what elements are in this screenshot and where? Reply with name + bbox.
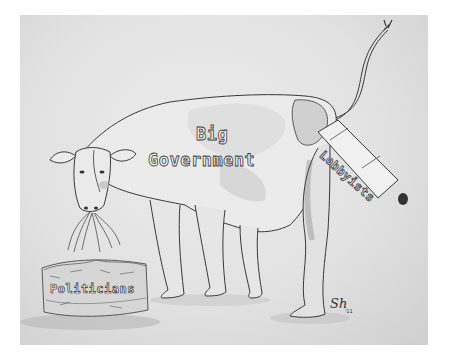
hind-leg-left [240, 225, 262, 298]
nostril [84, 207, 88, 210]
label-big: Big [196, 124, 228, 144]
left-eye [80, 171, 85, 174]
front-leg-right [195, 205, 226, 296]
nostril [94, 207, 98, 210]
tail [330, 20, 392, 122]
right-eye [100, 171, 105, 174]
cow-illustration [0, 0, 449, 361]
front-leg-left [150, 200, 184, 298]
label-government: Government [148, 150, 255, 170]
left-ear [50, 152, 76, 163]
tube-cap [398, 193, 408, 205]
hay-strands [68, 212, 120, 252]
signature-year: '11 [345, 308, 353, 314]
label-politicians: Politicians [50, 282, 135, 296]
